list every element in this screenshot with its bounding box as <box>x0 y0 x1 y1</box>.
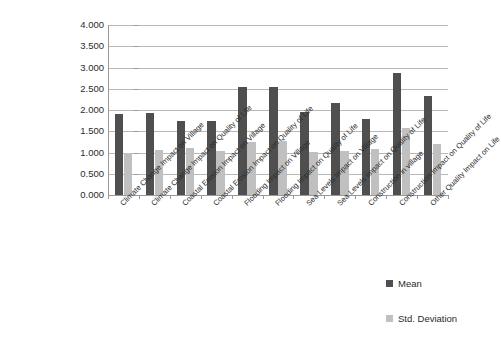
legend-item-std-deviation: Std. Deviation <box>386 313 457 324</box>
bar-group <box>108 25 139 195</box>
y-axis-tick-label: 4.000 <box>36 20 104 30</box>
bar-mean <box>115 114 124 195</box>
y-axis-tick-label: 0.500 <box>36 169 104 179</box>
legend-label-std-deviation: Std. Deviation <box>398 313 457 324</box>
y-axis-tick-labels: 4.0003.5003.0002.5002.0001.5001.0000.500… <box>30 25 104 195</box>
y-axis-tick-label: 3.500 <box>36 41 104 51</box>
legend-item-mean: Mean <box>386 278 422 289</box>
legend-label-mean: Mean <box>398 278 422 289</box>
y-axis-tick-label: 3.000 <box>36 63 104 73</box>
y-axis-tick-label: 1.500 <box>36 126 104 136</box>
y-axis-tick-label: 1.000 <box>36 148 104 158</box>
x-axis-category-labels: Climate Change Impact on VillageClimate … <box>0 196 480 316</box>
legend-swatch-std-deviation-icon <box>386 315 393 322</box>
y-axis-tick-label: 2.500 <box>36 84 104 94</box>
y-axis-tick-label: 2.000 <box>36 105 104 115</box>
legend-swatch-mean-icon <box>386 280 393 287</box>
